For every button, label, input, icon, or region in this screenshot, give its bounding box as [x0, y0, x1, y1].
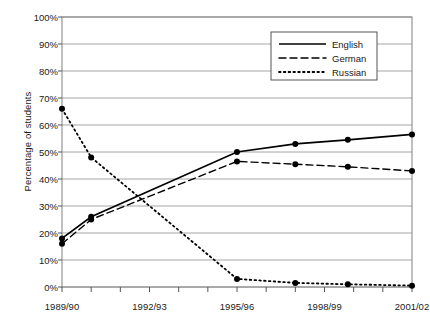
- data-point-russian: [345, 281, 351, 287]
- data-point-russian: [88, 154, 94, 160]
- data-point-russian: [409, 283, 415, 289]
- data-point-russian: [292, 280, 298, 286]
- x-axis-ticks: [62, 287, 412, 292]
- data-point-german: [292, 161, 298, 167]
- data-point-english: [59, 235, 65, 241]
- data-series: [59, 106, 415, 289]
- data-point-russian: [59, 106, 65, 112]
- chart-canvas: EnglishGermanRussian: [0, 0, 430, 323]
- data-point-german: [345, 164, 351, 170]
- data-point-german: [88, 217, 94, 223]
- legend-label-german: German: [332, 53, 366, 64]
- data-point-english: [292, 141, 298, 147]
- data-point-english: [409, 131, 415, 137]
- data-point-german: [59, 241, 65, 247]
- data-point-english: [234, 149, 240, 155]
- line-chart: Percentage of students 0%10%20%30%40%50%…: [0, 0, 430, 323]
- series-line-russian: [62, 109, 412, 286]
- legend-label-english: English: [332, 39, 363, 50]
- data-point-russian: [234, 276, 240, 282]
- series-line-german: [62, 161, 412, 243]
- legend-label-russian: Russian: [332, 67, 366, 78]
- data-point-english: [345, 137, 351, 143]
- chart-legend: EnglishGermanRussian: [271, 32, 377, 80]
- data-point-german: [409, 168, 415, 174]
- data-point-german: [234, 158, 240, 164]
